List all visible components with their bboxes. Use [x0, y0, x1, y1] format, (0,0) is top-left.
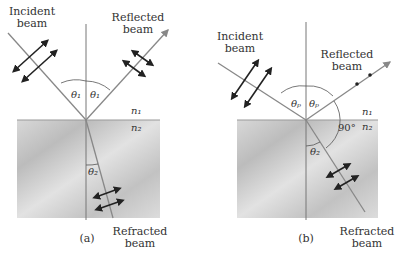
incident-ray [218, 63, 306, 120]
refracted-beam-label: Refracted beam [110, 226, 170, 250]
reflected-beam-label: Reflected beam [108, 12, 168, 36]
theta2-label: θ₂ [88, 166, 98, 177]
caption-a: (a) [77, 233, 97, 245]
n2-label: n₂ [362, 121, 372, 132]
n2-label: n₂ [131, 122, 141, 133]
incident-beam-label: Incident beam [2, 6, 62, 30]
thetap-label: θₚ [309, 98, 319, 109]
caption-b: (b) [296, 233, 316, 245]
incident-ray [8, 33, 86, 120]
theta1-label: θ₁ [90, 89, 100, 100]
reflected-beam-label: Reflected beam [317, 49, 377, 73]
reflected-ray [86, 30, 168, 120]
right-angle-label: 90° [338, 122, 356, 133]
n1-label: n₁ [362, 106, 372, 117]
n1-label: n₁ [131, 105, 141, 116]
medium-n2 [237, 120, 378, 218]
theta1-label: θ₁ [71, 89, 81, 100]
thetap-label: θₚ [291, 98, 301, 109]
refracted-beam-label: Refracted beam [337, 226, 397, 250]
incident-beam-label: Incident beam [215, 31, 265, 55]
polarization-diagram: Incident beam Reflected beam Refracted b… [0, 0, 401, 260]
theta2-label: θ₂ [310, 146, 320, 157]
panel-a [8, 24, 168, 220]
